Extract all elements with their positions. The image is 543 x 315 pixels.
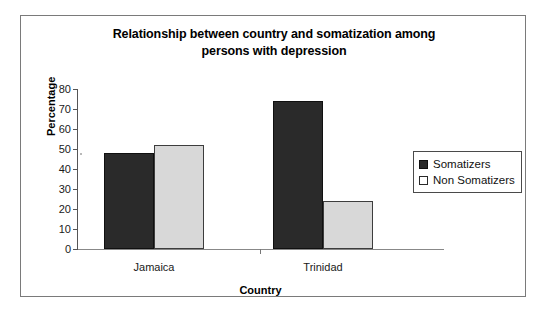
bar-jamaica-non-somatizers: [154, 145, 204, 249]
chart-title-line-1: Relationship between country and somatiz…: [41, 26, 507, 43]
legend-label: Somatizers: [433, 158, 491, 170]
y-tick-mark: [73, 249, 78, 250]
legend-item-non-somatizers: Non Somatizers: [419, 172, 515, 188]
scan-artifact-speck: [80, 153, 82, 155]
outlined-light-square-icon: [419, 176, 428, 185]
y-tick-label: 20: [45, 203, 71, 215]
y-tick-mark: [73, 129, 78, 130]
y-tick-label: 70: [45, 103, 71, 115]
y-tick-mark: [73, 89, 78, 90]
bar-trinidad-non-somatizers: [323, 201, 373, 249]
chart-frame: Relationship between country and somatiz…: [20, 15, 526, 297]
bar-jamaica-somatizers: [104, 153, 154, 249]
x-tick-label-trinidad: Trinidad: [273, 261, 373, 273]
y-tick-label: 50: [45, 143, 71, 155]
filled-dark-square-icon: [419, 160, 428, 169]
y-tick-label: 0: [45, 243, 71, 255]
chart-title: Relationship between country and somatiz…: [41, 26, 507, 60]
x-axis-title: Country: [77, 284, 444, 296]
legend-item-somatizers: Somatizers: [419, 156, 515, 172]
plot-area: 80 70 60 50 40 30 20 10: [77, 89, 444, 249]
y-tick-label: 60: [45, 123, 71, 135]
y-tick-label: 10: [45, 223, 71, 235]
x-tick-label-jamaica: Jamaica: [104, 261, 204, 273]
y-tick-label: 30: [45, 183, 71, 195]
chart-legend: Somatizers Non Somatizers: [413, 151, 522, 193]
y-tick-label: 40: [45, 163, 71, 175]
bar-trinidad-somatizers: [273, 101, 323, 249]
y-tick-mark: [73, 209, 78, 210]
y-tick-mark: [73, 229, 78, 230]
legend-label: Non Somatizers: [433, 174, 515, 186]
chart-title-line-2: persons with depression: [41, 43, 507, 60]
y-tick-mark: [73, 149, 78, 150]
y-tick-mark: [73, 189, 78, 190]
y-tick-mark: [73, 169, 78, 170]
y-tick-mark: [73, 109, 78, 110]
y-tick-label: 80: [45, 83, 71, 95]
category-divider-tick: [260, 249, 261, 254]
